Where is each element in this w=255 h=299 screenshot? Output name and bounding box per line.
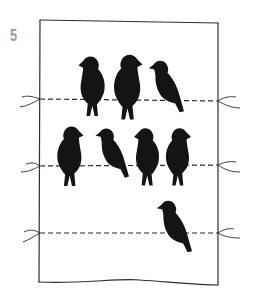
bird-icon [114, 55, 142, 120]
bird-icon [149, 61, 184, 113]
wire-2 [21, 162, 240, 172]
bird-icon [57, 126, 83, 186]
bird-icon [166, 128, 191, 185]
bird-icon [134, 128, 159, 185]
bird-icon [79, 56, 105, 116]
bird-icon [157, 201, 192, 253]
bird-icon [95, 128, 129, 177]
birds-on-wire-illustration [0, 0, 255, 299]
wire-3 [23, 229, 240, 242]
